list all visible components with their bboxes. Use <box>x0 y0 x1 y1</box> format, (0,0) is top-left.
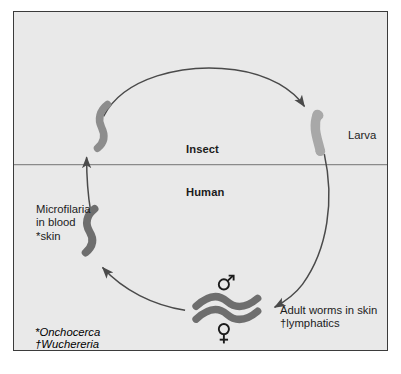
legend-line-wuchereria: †Wuchereria <box>35 338 100 350</box>
insect-microfilaria-shape <box>98 104 108 148</box>
stage-label-larva: Larva <box>348 129 376 142</box>
legend-line-onchocerca: *Onchocerca <box>35 326 100 338</box>
male-symbol-icon <box>219 276 234 290</box>
larva-tail <box>316 147 326 156</box>
figure-root: Insect Human Larva Microfilaria in blood… <box>0 0 401 374</box>
stage-label-microfilaria: Microfilaria in blood *skin <box>36 203 91 243</box>
arrow-larva-to-adult <box>275 154 329 307</box>
arrow-adult-to-microfilaria <box>103 267 186 310</box>
arrow-insect-to-larva <box>104 68 305 116</box>
species-legend: *Onchocerca †Wuchereria <box>35 326 100 350</box>
diagram-canvas <box>14 12 387 350</box>
life-cycle-diagram-panel: Insect Human Larva Microfilaria in blood… <box>13 11 388 351</box>
figure-caption <box>13 360 343 370</box>
zone-label-human: Human <box>186 186 224 199</box>
adult-female-worm-shape <box>196 309 258 319</box>
zone-label-insect: Insect <box>186 143 219 156</box>
larva-head <box>312 110 323 120</box>
stage-label-adult-worms: Adult worms in skin †lymphatics <box>280 304 377 331</box>
adult-male-worm-shape <box>196 297 258 307</box>
female-symbol-icon <box>219 324 229 343</box>
